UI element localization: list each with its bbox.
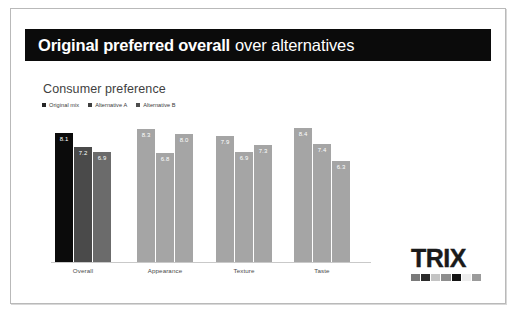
bar-value-label: 8.0 bbox=[180, 137, 189, 143]
legend-swatch-icon bbox=[42, 103, 46, 107]
legend-swatch-icon bbox=[88, 103, 92, 107]
bar-value-label: 6.9 bbox=[240, 155, 249, 161]
slide-title-remainder: over alternatives bbox=[235, 36, 354, 55]
bar: 6.9 bbox=[93, 152, 111, 262]
bar-group: 8.17.26.9 bbox=[55, 115, 111, 262]
legend-item: Alternative A bbox=[88, 102, 127, 108]
logo-swatch bbox=[431, 274, 440, 281]
bar: 8.3 bbox=[137, 129, 155, 262]
bar-group: 7.96.97.3 bbox=[216, 115, 272, 262]
slide-title-emphasis: Original preferred overall bbox=[38, 36, 230, 55]
trix-logo: TRIX bbox=[411, 246, 481, 281]
bar-value-label: 7.3 bbox=[259, 148, 268, 154]
bar: 8.1 bbox=[55, 133, 73, 262]
bar-value-label: 8.1 bbox=[60, 136, 69, 142]
logo-swatch bbox=[472, 274, 481, 281]
bar: 7.9 bbox=[216, 136, 234, 262]
category-label: Taste bbox=[294, 267, 350, 274]
logo-swatch bbox=[452, 274, 461, 281]
bar: 6.3 bbox=[332, 161, 350, 262]
bar-value-label: 8.3 bbox=[142, 132, 151, 138]
bar: 8.4 bbox=[294, 128, 312, 262]
legend-swatch-icon bbox=[136, 103, 140, 107]
logo-swatch bbox=[421, 274, 430, 281]
legend-item-label: Alternative A bbox=[95, 102, 127, 108]
bar-group: 8.36.88.0 bbox=[137, 115, 193, 262]
category-label: Overall bbox=[55, 267, 111, 274]
legend-item: Original mix bbox=[42, 102, 79, 108]
bar-group: 8.47.46.3 bbox=[294, 115, 350, 262]
bar-value-label: 6.8 bbox=[161, 156, 170, 162]
bar-value-label: 7.2 bbox=[79, 150, 88, 156]
logo-swatch bbox=[411, 274, 420, 281]
trix-logo-swatch-strip bbox=[411, 274, 481, 281]
bar: 6.9 bbox=[235, 152, 253, 262]
bar-value-label: 6.9 bbox=[98, 155, 107, 161]
chart-legend: Original mixAlternative AAlternative B bbox=[42, 102, 176, 108]
trix-logo-wordmark: TRIX bbox=[411, 246, 481, 271]
logo-swatch bbox=[441, 274, 450, 281]
bar-value-label: 6.3 bbox=[337, 164, 346, 170]
chart-baseline-axis bbox=[51, 262, 371, 263]
logo-swatch bbox=[462, 274, 471, 281]
legend-item-label: Alternative B bbox=[143, 102, 175, 108]
legend-item-label: Original mix bbox=[49, 102, 79, 108]
slide-title-band: Original preferred overall over alternat… bbox=[25, 29, 491, 61]
category-label: Texture bbox=[216, 267, 272, 274]
legend-item: Alternative B bbox=[136, 102, 175, 108]
bar: 6.8 bbox=[156, 153, 174, 262]
bar: 7.3 bbox=[254, 145, 272, 262]
chart-heading: Consumer preference bbox=[43, 82, 166, 96]
bar: 8.0 bbox=[175, 134, 193, 262]
slide-canvas: Original preferred overall over alternat… bbox=[10, 8, 506, 304]
category-label: Appearance bbox=[137, 267, 193, 274]
bar: 7.4 bbox=[313, 144, 331, 262]
bar-value-label: 8.4 bbox=[299, 131, 308, 137]
bar-value-label: 7.9 bbox=[221, 139, 230, 145]
bar: 7.2 bbox=[74, 147, 92, 262]
bar-chart-plot-area: 8.17.26.98.36.88.07.96.97.38.47.46.3 bbox=[51, 115, 361, 262]
bar-value-label: 7.4 bbox=[318, 147, 327, 153]
